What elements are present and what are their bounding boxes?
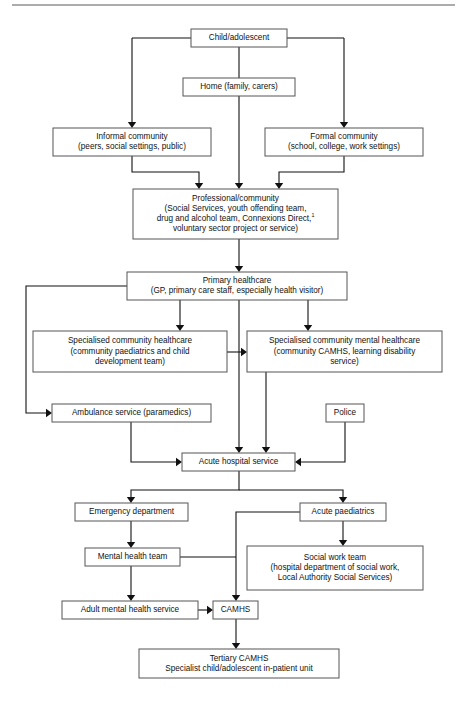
node-police: Police — [326, 404, 364, 422]
specialised-community-healthcare-label-line-1: Specialised community healthcare — [68, 336, 193, 345]
edge-acutepaed-to-socialwork — [339, 521, 347, 546]
node-professional-community: Professional/community(Social Services, … — [133, 189, 338, 239]
edge-mental-to-adult — [127, 566, 135, 601]
tertiary-camhs-label-line-2: Specialist child/adolescent in-patient u… — [165, 664, 313, 673]
emergency-department-label-line-1: Emergency department — [89, 507, 175, 516]
social-work-team-label-line-3: Local Authority Social Services) — [278, 573, 393, 582]
social-work-team-label-line-1: Social work team — [304, 553, 367, 562]
figure-page: Child/adolescentHome (family, carers)Inf… — [0, 0, 467, 704]
node-mental-health-team: Mental health team — [85, 548, 180, 566]
node-specialised-community-healthcare: Specialised community healthcare(communi… — [33, 331, 227, 372]
edge-emergency-to-mental — [127, 521, 135, 548]
node-informal-community: Informal community(peers, social setting… — [53, 128, 211, 156]
edge-acute-to-emergency — [127, 471, 239, 503]
node-ambulance-service: Ambulance service (paramedics) — [52, 404, 211, 422]
node-acute-paediatrics: Acute paediatrics — [300, 503, 386, 521]
camhs-label-line-1: CAMHS — [221, 605, 251, 614]
child-adolescent-label-line-1: Child/adolescent — [209, 33, 270, 42]
edge-ambulance-to-acute — [131, 422, 182, 466]
formal-community-label-line-2: (school, college, work settings) — [288, 142, 400, 151]
specialised-community-mental-healthcare-label-line-2: (community CAMHS, learning disability — [274, 347, 416, 356]
node-acute-hospital-service: Acute hospital service — [182, 453, 295, 471]
social-work-team-label-line-2: (hospital department of social work, — [271, 563, 400, 572]
node-tertiary-camhs: Tertiary CAMHSSpecialist child/adolescen… — [139, 649, 339, 678]
node-emergency-department: Emergency department — [75, 503, 188, 521]
informal-community-label-line-1: Informal community — [96, 132, 168, 141]
specialised-community-mental-healthcare-label-line-3: service) — [330, 357, 359, 366]
acute-hospital-service-label-line-1: Acute hospital service — [199, 457, 279, 466]
primary-healthcare-label-line-1: Primary healthcare — [203, 276, 272, 285]
specialised-community-healthcare-label-line-3: development team) — [95, 357, 165, 366]
ambulance-service-label-line-1: Ambulance service (paramedics) — [72, 408, 191, 417]
nodes-layer: Child/adolescentHome (family, carers)Inf… — [33, 29, 442, 678]
node-adult-mental-health-service: Adult mental health service — [62, 601, 198, 619]
node-specialised-community-mental-healthcare: Specialised community mental healthcare(… — [247, 331, 442, 372]
professional-community-label-line-2: (Social Services, youth offending team, — [165, 204, 307, 213]
node-camhs: CAMHS — [213, 601, 258, 619]
edge-home-to-professional — [235, 96, 243, 189]
edge-primary-to-spec-mental — [304, 300, 312, 331]
edge-spechealth-to-specmental — [227, 348, 247, 356]
edge-specmental-to-acute — [262, 372, 270, 453]
edge-police-to-acute — [295, 422, 345, 466]
edge-acute-to-acutepaed — [239, 490, 347, 503]
node-primary-healthcare: Primary healthcare(GP, primary care staf… — [127, 272, 347, 300]
footnote-marker: 1 — [311, 213, 314, 219]
node-formal-community: Formal community(school, college, work s… — [265, 128, 423, 156]
edge-informal-to-professional — [132, 156, 203, 189]
edge-adult-to-camhs — [198, 606, 213, 614]
informal-community-label-line-2: (peers, social settings, public) — [78, 142, 186, 151]
formal-community-label-line-1: Formal community — [310, 132, 378, 141]
professional-community-label-line-4: voluntary sector project or service) — [173, 224, 298, 233]
mental-health-team-label-line-1: Mental health team — [98, 552, 168, 561]
edge-professional-to-primary — [235, 239, 243, 272]
home-family-carers-label-line-1: Home (family, carers) — [200, 82, 278, 91]
police-label-line-1: Police — [334, 408, 357, 417]
specialised-community-mental-healthcare-label-line-1: Specialised community mental healthcare — [269, 336, 421, 345]
specialised-community-healthcare-label-line-2: (community paediatrics and child — [70, 347, 190, 356]
tertiary-camhs-label-line-1: Tertiary CAMHS — [210, 654, 269, 663]
adult-mental-health-service-label-line-1: Adult mental health service — [81, 605, 180, 614]
node-child-adolescent: Child/adolescent — [191, 29, 287, 47]
node-home-family-carers: Home (family, carers) — [183, 78, 295, 96]
primary-healthcare-label-line-2: (GP, primary care staff, especially heal… — [151, 286, 324, 295]
edge-camhs-to-tertiary — [232, 619, 240, 649]
edge-primary-to-acute — [235, 300, 243, 453]
edge-primary-to-spec-health — [176, 300, 184, 331]
professional-community-label-line-1: Professional/community — [192, 194, 280, 203]
node-social-work-team: Social work team(hospital department of … — [247, 546, 423, 590]
flowchart-diagram: Child/adolescentHome (family, carers)Inf… — [0, 0, 467, 704]
acute-paediatrics-label-line-1: Acute paediatrics — [312, 507, 375, 516]
professional-community-label-line-3: drug and alcohol team, Connexions Direct… — [157, 213, 315, 224]
edge-formal-to-professional — [275, 156, 344, 189]
